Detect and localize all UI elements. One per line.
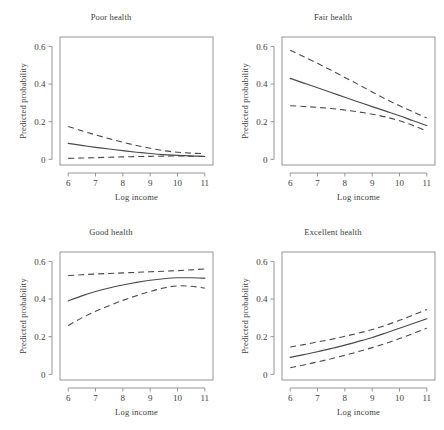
svg-text:0.2: 0.2 xyxy=(34,332,45,342)
svg-text:11: 11 xyxy=(200,178,209,188)
svg-text:Predicted probability: Predicted probability xyxy=(18,63,28,139)
svg-text:8: 8 xyxy=(343,178,348,188)
svg-text:7: 7 xyxy=(315,178,320,188)
chart-panel-good-health: Good health 00.20.40.667891011Log income… xyxy=(0,215,222,430)
svg-text:Predicted probability: Predicted probability xyxy=(240,63,250,139)
svg-text:8: 8 xyxy=(343,393,348,403)
svg-text:7: 7 xyxy=(93,393,98,403)
svg-text:Log income: Log income xyxy=(337,192,380,202)
svg-text:6: 6 xyxy=(66,393,71,403)
svg-text:0.6: 0.6 xyxy=(256,257,268,267)
svg-text:10: 10 xyxy=(173,393,183,403)
svg-text:8: 8 xyxy=(121,178,126,188)
svg-text:0.2: 0.2 xyxy=(256,117,267,127)
svg-text:10: 10 xyxy=(395,178,405,188)
svg-text:0.4: 0.4 xyxy=(256,294,268,304)
panel-plot-area: 00.20.40.667891011Log incomePredicted pr… xyxy=(222,215,444,430)
svg-text:6: 6 xyxy=(288,178,293,188)
panel-plot-area: 00.20.40.667891011Log incomePredicted pr… xyxy=(0,215,222,430)
svg-text:Predicted probability: Predicted probability xyxy=(240,278,250,354)
svg-text:0: 0 xyxy=(41,370,46,380)
svg-text:0.6: 0.6 xyxy=(256,42,268,52)
svg-text:0.2: 0.2 xyxy=(34,117,45,127)
svg-text:Log income: Log income xyxy=(115,407,158,417)
svg-text:0: 0 xyxy=(41,155,46,165)
chart-panel-fair-health: Fair health 00.20.40.667891011Log income… xyxy=(222,0,444,215)
svg-text:11: 11 xyxy=(422,178,431,188)
svg-text:9: 9 xyxy=(148,393,153,403)
svg-text:Predicted probability: Predicted probability xyxy=(18,278,28,354)
svg-text:0.4: 0.4 xyxy=(256,79,268,89)
svg-text:6: 6 xyxy=(288,393,293,403)
svg-text:7: 7 xyxy=(93,178,98,188)
svg-text:10: 10 xyxy=(395,393,405,403)
svg-text:9: 9 xyxy=(148,178,153,188)
svg-text:0.6: 0.6 xyxy=(34,257,46,267)
panel-plot-area: 00.20.40.667891011Log incomePredicted pr… xyxy=(0,0,222,215)
svg-text:11: 11 xyxy=(200,393,209,403)
svg-text:0: 0 xyxy=(263,370,268,380)
svg-text:8: 8 xyxy=(121,393,126,403)
panel-plot-area: 00.20.40.667891011Log incomePredicted pr… xyxy=(222,0,444,215)
svg-text:9: 9 xyxy=(370,178,375,188)
svg-text:10: 10 xyxy=(173,178,183,188)
svg-text:7: 7 xyxy=(315,393,320,403)
svg-text:9: 9 xyxy=(370,393,375,403)
svg-text:6: 6 xyxy=(66,178,71,188)
svg-text:Log income: Log income xyxy=(115,192,158,202)
chart-panel-poor-health: Poor health 00.20.40.667891011Log income… xyxy=(0,0,222,215)
svg-text:Log income: Log income xyxy=(337,407,380,417)
svg-text:0.4: 0.4 xyxy=(34,79,46,89)
svg-text:0.4: 0.4 xyxy=(34,294,46,304)
svg-text:11: 11 xyxy=(422,393,431,403)
svg-text:0.2: 0.2 xyxy=(256,332,267,342)
figure-canvas: Poor health 00.20.40.667891011Log income… xyxy=(0,0,444,430)
chart-panel-excellent-health: Excellent health 00.20.40.667891011Log i… xyxy=(222,215,444,430)
svg-text:0: 0 xyxy=(263,155,268,165)
svg-text:0.6: 0.6 xyxy=(34,42,46,52)
